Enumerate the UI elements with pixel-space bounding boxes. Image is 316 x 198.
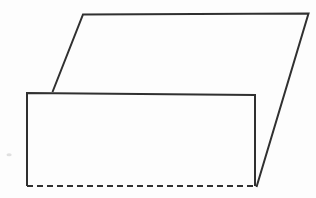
figure-canvas bbox=[0, 0, 316, 198]
rectangle-face bbox=[27, 93, 255, 186]
scan-smudge-artifact bbox=[7, 153, 12, 156]
geometry-figure bbox=[0, 0, 316, 198]
